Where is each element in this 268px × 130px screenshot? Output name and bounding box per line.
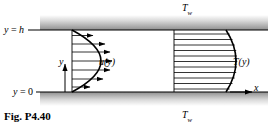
label-top-wall-position: y = h xyxy=(4,25,24,35)
bottom-wall-temp-subscript: w xyxy=(188,116,193,123)
bottom-wall-temp-symbol: T xyxy=(182,109,188,120)
label-x-axis: x xyxy=(254,83,258,93)
label-y-axis: y xyxy=(59,57,63,67)
label-bottom-wall-position: y = 0 xyxy=(13,87,33,97)
top-wall xyxy=(28,15,268,30)
label-top-wall-temperature: Tw xyxy=(182,3,192,16)
top-wall-temp-symbol: T xyxy=(182,2,188,13)
label-temperature-profile: T(y) xyxy=(233,57,250,67)
label-velocity-profile: u(y) xyxy=(99,57,115,67)
bottom-wall xyxy=(36,92,268,106)
top-wall-temp-subscript: w xyxy=(188,9,193,16)
label-bottom-wall-temperature: Tw xyxy=(182,110,192,123)
figure-caption: Fig. P4.40 xyxy=(4,110,51,122)
temperature-profile xyxy=(174,30,237,92)
figure-container: y = h y = 0 y x u(y) T(y) Tw Tw Fig. P4.… xyxy=(0,0,268,130)
